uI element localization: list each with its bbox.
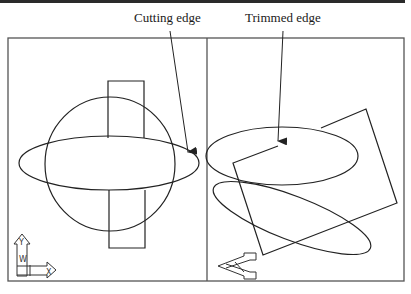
- svg-text:Y: Y: [18, 238, 24, 247]
- svg-text:X: X: [46, 268, 52, 277]
- rectangle-top-part: [108, 81, 144, 138]
- ucs-icon-3d: [218, 253, 256, 279]
- cutting-edge-ellipse: [19, 136, 199, 190]
- svg-text:W: W: [19, 255, 27, 264]
- ucs-icon-2d: Y W X: [14, 234, 56, 278]
- left-viewport: [19, 81, 199, 248]
- right-viewport: [206, 109, 397, 269]
- circle-shape: [45, 97, 175, 231]
- cutting-edge-leader: [170, 31, 188, 152]
- tilted-ellipse: [206, 167, 379, 268]
- trimmed-edge-leader: [278, 31, 283, 141]
- upper-ellipse: [206, 127, 358, 185]
- rectangle-bottom-part: [109, 190, 145, 248]
